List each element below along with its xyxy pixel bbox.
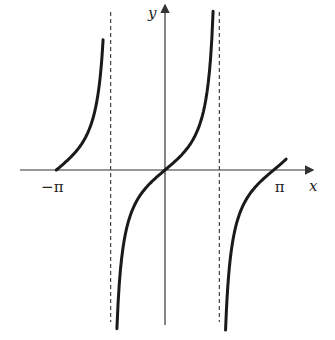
x-axis-label: x — [309, 177, 318, 195]
y-axis-label: y — [147, 4, 157, 22]
left-branch — [56, 40, 103, 170]
tangent-chart: x y −ππ — [0, 0, 335, 340]
x-tick-label: −π — [41, 178, 64, 196]
x-tick-label: π — [275, 178, 285, 196]
